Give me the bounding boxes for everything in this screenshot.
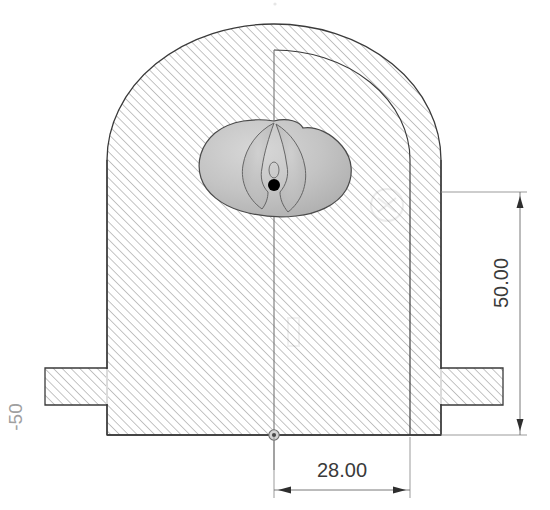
left-flange-ear bbox=[45, 368, 107, 405]
left-margin-label: -50 bbox=[5, 403, 26, 430]
cored-cavity-feature bbox=[199, 120, 351, 217]
right-flange-ear bbox=[441, 368, 503, 405]
left-flange-outline bbox=[45, 368, 107, 405]
technical-drawing-canvas: 50.00 28.00 -50 bbox=[0, 0, 550, 510]
right-flange-outline bbox=[441, 368, 503, 405]
dimension-value-28: 28.00 bbox=[317, 459, 367, 481]
cavity-outer-outline bbox=[199, 120, 351, 217]
top-speck-mark bbox=[273, 2, 276, 5]
dimension-value-50: 50.00 bbox=[490, 258, 512, 308]
center-point-marker bbox=[268, 179, 280, 191]
